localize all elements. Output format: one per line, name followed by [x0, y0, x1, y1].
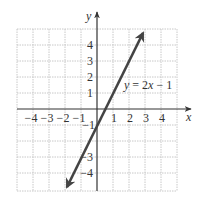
function-line — [67, 33, 143, 187]
y-tick: 3 — [87, 54, 93, 68]
equation-label: y = 2x − 1 — [123, 78, 172, 92]
y-tick: 2 — [87, 70, 93, 84]
x-tick: −3 — [41, 111, 54, 125]
x-tick: 2 — [127, 111, 133, 125]
y-tick: −4 — [80, 166, 93, 180]
x-axis-label: x — [185, 110, 192, 124]
x-tick: 4 — [159, 111, 165, 125]
x-tick: 1 — [111, 111, 117, 125]
y-axis-label: y — [85, 9, 92, 23]
y-tick: −1 — [82, 118, 95, 132]
x-tick: −2 — [57, 111, 70, 125]
y-tick: 4 — [87, 38, 93, 52]
x-tick: −4 — [25, 111, 38, 125]
coordinate-plane: x y −4 −3 −2 −1 1 2 3 4 4 3 2 1 −1 −3 −4… — [0, 0, 201, 201]
y-tick: 1 — [87, 86, 93, 100]
equation-eq: = 2 — [129, 78, 148, 92]
equation-rest: − 1 — [153, 78, 172, 92]
x-tick: 3 — [143, 111, 149, 125]
